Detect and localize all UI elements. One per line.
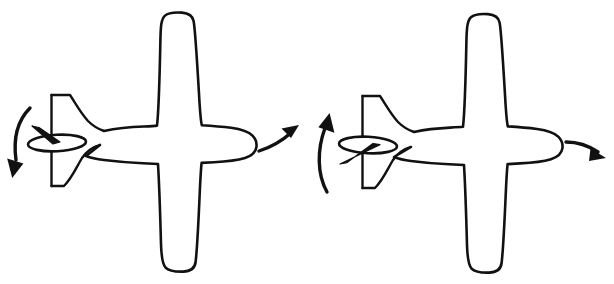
propeller-rotation-arrow-head: [7, 159, 23, 179]
aircraft-diagram-svg: [0, 0, 614, 284]
upper-horizontal-stabilizer: [52, 95, 105, 131]
fuselage-and-wings: [394, 14, 563, 273]
tail-yaw-arrow-shaft: [259, 132, 292, 151]
right-aircraft-diagram: [318, 14, 606, 273]
tail-yaw-arrow-head: [282, 125, 300, 138]
propeller-rotation-arrow-shaft: [319, 128, 327, 192]
propeller-rotation-arrow-head: [318, 113, 334, 133]
propeller-rotation-arrow-shaft: [15, 108, 30, 160]
fuselage-and-wings: [86, 12, 257, 271]
figure-canvas: [0, 0, 614, 284]
left-aircraft-diagram: [7, 12, 299, 271]
upper-horizontal-stabilizer: [363, 96, 415, 132]
propeller-hub: [339, 135, 398, 154]
